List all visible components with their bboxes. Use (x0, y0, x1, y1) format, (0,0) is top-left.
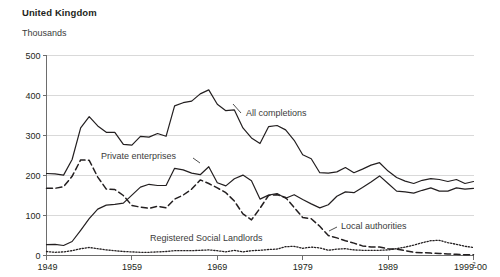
x-axis-tick-label: 1989 (378, 262, 398, 272)
gridlines-group (47, 56, 474, 216)
x-axis-tick-label: 1969 (207, 262, 227, 272)
series-label-all-completions: All completions (246, 108, 307, 118)
y-axis-tick-label: 0 (35, 251, 40, 261)
annotation-leader-private-enterprises (193, 158, 200, 163)
y-axis-tick-label: 100 (25, 211, 40, 221)
y-axis-tick-label: 400 (25, 91, 40, 101)
annotation-leader-local-authorities (329, 227, 337, 231)
chart-unit-label: Thousands (22, 28, 67, 38)
x-axis-tick-label: 1999-00 (454, 262, 487, 272)
x-axis-tick-label: 1949 (37, 262, 57, 272)
x-axis-tick-label: 1979 (293, 262, 313, 272)
chart-figure: United Kingdom Thousands 010020030040050… (0, 0, 500, 277)
series-annotations-group: All completionsPrivate enterprisesLocal … (101, 104, 407, 243)
y-axis-tick-label: 500 (25, 51, 40, 61)
series-label-private-enterprises: Private enterprises (101, 151, 177, 161)
y-axis-tick-label: 300 (25, 131, 40, 141)
series-label-local-authorities: Local authorities (341, 221, 407, 231)
y-axis-tick-label: 200 (25, 171, 40, 181)
x-axis-label-footnote-marker: 2 (473, 261, 476, 267)
x-axis-tick-label: 1959 (122, 262, 142, 272)
annotation-leader-all-completions (233, 104, 241, 113)
x-axis-labels-group: 194919591969197919891999-002 (37, 261, 487, 272)
y-axis-labels-group: 0100200300400500 (25, 51, 40, 261)
chart-plot-area: 0100200300400500 19491959196919791989199… (0, 0, 500, 277)
series-line-all-completions (47, 90, 474, 184)
chart-title: United Kingdom (22, 7, 97, 18)
series-label-registered-social-landlords: Registered Social Landlords (150, 233, 263, 243)
